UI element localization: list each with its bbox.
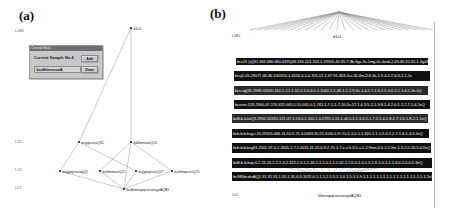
lattice-node-label-bottom: bcdkmnopqrstuvwxyzAQB1 — [127, 188, 170, 192]
draw-button-label: Draw — [85, 68, 93, 72]
lattice-node-n1[interactable] — [78, 141, 80, 143]
lattice-node-label-n5: bcjgipqsuvxQ27 — [139, 170, 164, 174]
dialog-caption: Current Sample No.4 — [34, 55, 74, 60]
draw-button[interactable]: Draw — [81, 66, 98, 73]
lattice-node-top[interactable] — [130, 27, 132, 29]
lattice-node-label-b-bottom: klmnopqrstuvwxyzAQB1 — [318, 193, 361, 198]
lattice-edges-b-top — [249, 12, 433, 30]
lattice-row-7[interactable]: bcB-b-b-kxq-0-2-21-21-2-2-2-4-2-122-2-3-… — [232, 158, 432, 168]
lattice-node-label-n4: bcklmnovxQ21 — [103, 170, 126, 174]
lattice-row-5[interactable]: bcb-b-b-kxg-t-13-29205-466-11-10-5-71-4-… — [232, 129, 429, 138]
lattice-node-label-n1: bcgipsuvxQ31 — [82, 141, 104, 145]
lattice-node-label-n3: bcgipqrsuvxgQ2 — [63, 170, 88, 174]
lattice-row-8[interactable]: bc980bcxkvAQ1-31-31-31-1-31-1-31-0-3-102… — [232, 172, 432, 181]
figure-root: (a) L0B1 L32 L10 L01 d1v1 — [0, 0, 459, 217]
panel-b-label: (b) — [210, 6, 226, 22]
lattice-row-0[interactable]: bcx21 (v)(31-361-680-660-4195)46-316-201… — [236, 58, 428, 65]
lattice-row-3[interactable]: bcxvxv-123-2900-07-170-321-005-1-51-001-… — [234, 100, 430, 109]
dialog-body: Current Sample No.4 bcdklmnovxA Add Draw — [30, 51, 102, 80]
lattice-node-label-n2: bdklmnovxQ24 — [134, 141, 157, 145]
panel-b-right-rule — [434, 22, 435, 208]
lattice-row-4[interactable]: bcB-b-k-kxQ3-2902-02410-121-07-1-53-0-1-… — [232, 114, 428, 123]
lattice-node-n5[interactable] — [135, 170, 137, 172]
add-button[interactable]: Add — [81, 55, 98, 62]
lattice-node-label-b-top: d1v1 — [333, 34, 342, 39]
lattice-node-bottom[interactable] — [123, 188, 125, 190]
lattice-node-n2[interactable] — [130, 141, 132, 143]
concept-mask-dialog[interactable]: Concept Mask Current Sample No.4 bcdklmn… — [29, 45, 103, 79]
concept-input-field[interactable]: bcdklmnovxA — [34, 66, 81, 73]
lattice-node-label-n6: bcklmqsuvxQ21 — [175, 170, 200, 174]
lattice-node-label-top: d1v1 — [134, 27, 142, 31]
lattice-node-n3[interactable] — [59, 170, 61, 172]
lattice-node-n4[interactable] — [99, 170, 101, 172]
add-button-label: Add — [86, 57, 93, 61]
lattice-row-2[interactable]: bcx-xg(30-2989-01905-110-1-C1-1-51-0-1-6… — [234, 86, 428, 95]
lattice-row-1[interactable]: bcxj1-05-29077-46-46-1005/51-1-6116-6-1-… — [234, 71, 430, 81]
lattice-node-n6[interactable] — [171, 170, 173, 172]
panel-a: (a) L0B1 L32 L10 L01 d1v1 — [0, 0, 229, 217]
lattice-row-6[interactable]: bcb-b-b-kxg31-2501-37-0-1-2001-1-7-1-001… — [232, 143, 431, 153]
lattice-diagram-a: d1v1 bcgipsuvxQ31 bdklmnovxQ24 bcgipqrsu… — [0, 0, 229, 217]
concept-input-value: bcdklmnovxA — [37, 67, 63, 72]
